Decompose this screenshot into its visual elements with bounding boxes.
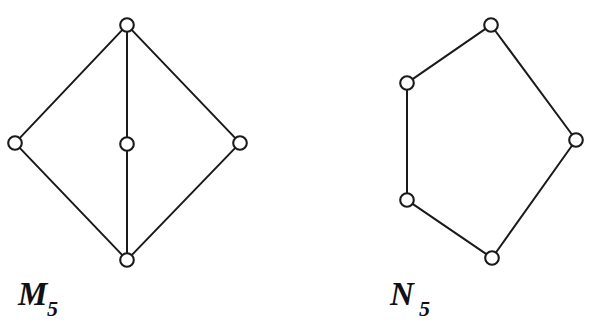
n5-right-vertex <box>569 133 583 147</box>
m5-label-base: M <box>17 276 49 312</box>
figure-background <box>0 0 593 336</box>
n5-top-vertex <box>484 18 498 32</box>
m5-label-subscript: 5 <box>47 296 58 321</box>
m5-center-vertex <box>120 137 134 151</box>
m5-left-vertex <box>8 136 22 150</box>
m5-bottom-vertex <box>120 253 134 267</box>
m5-right-vertex <box>233 136 247 150</box>
n5-label-subscript: 5 <box>419 296 430 321</box>
lattice-diagram-figure: M5N5 <box>0 0 593 336</box>
n5-upper-left-vertex <box>400 76 414 90</box>
n5-lower-left-vertex <box>400 193 414 207</box>
n5-label-base: N <box>389 276 415 312</box>
m5-top-vertex <box>120 18 134 32</box>
n5-bottom-vertex <box>485 251 499 265</box>
